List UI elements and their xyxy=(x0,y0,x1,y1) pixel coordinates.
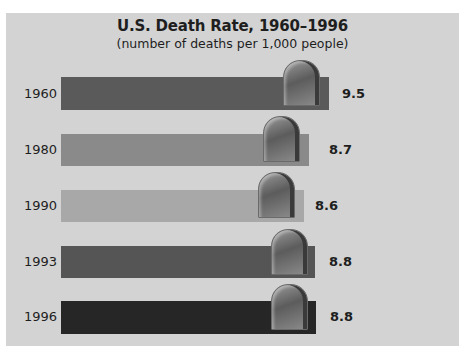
chart-panel xyxy=(6,13,459,346)
tombstone-icon xyxy=(263,116,300,162)
category-label-1960: 1960 xyxy=(24,86,64,101)
value-label-1993: 8.8 xyxy=(329,254,352,269)
value-label-1996: 8.8 xyxy=(330,309,353,324)
value-label-1980: 8.7 xyxy=(329,142,352,157)
tombstone-icon xyxy=(258,172,295,218)
chart-title: U.S. Death Rate, 1960–1996 xyxy=(6,17,459,35)
value-label-1990: 8.6 xyxy=(315,198,338,213)
category-label-1996: 1996 xyxy=(24,309,64,324)
category-label-1980: 1980 xyxy=(24,142,64,157)
category-label-1993: 1993 xyxy=(24,254,64,269)
value-label-1960: 9.5 xyxy=(342,86,365,101)
chart-subtitle: (number of deaths per 1,000 people) xyxy=(6,36,459,51)
tombstone-icon xyxy=(271,284,308,330)
tombstone-icon xyxy=(283,60,320,106)
tombstone-icon xyxy=(271,229,308,275)
category-label-1990: 1990 xyxy=(24,198,64,213)
